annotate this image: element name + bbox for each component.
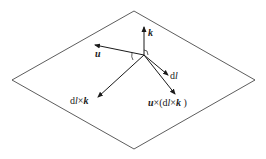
angle-arc-u bbox=[132, 53, 133, 60]
vector-dl bbox=[144, 55, 168, 75]
label-k: k bbox=[148, 28, 153, 38]
vector-u bbox=[95, 45, 144, 55]
right-angle-mark bbox=[144, 50, 148, 55]
label-dl-cross-k: dl×k bbox=[70, 96, 88, 106]
label-u-cross-dl-cross-k: u×(dl×k ) bbox=[148, 98, 187, 108]
plane bbox=[12, 11, 255, 149]
label-dl: dl bbox=[170, 71, 178, 81]
vector-diagram bbox=[0, 0, 266, 159]
label-u: u bbox=[95, 49, 101, 59]
vector-dl-cross-k bbox=[98, 55, 144, 97]
